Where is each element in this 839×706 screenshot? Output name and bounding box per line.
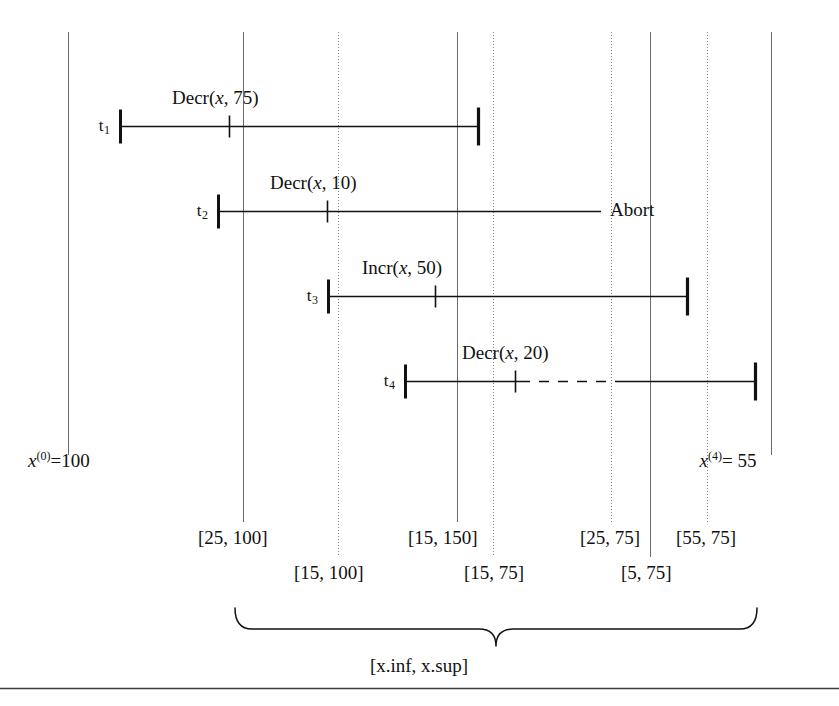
interval-label-4: [15, 75] — [464, 563, 524, 582]
interval-label-7: [55, 75] — [676, 528, 736, 547]
txn-4-operation-label: Decr(x, 20) — [462, 343, 549, 362]
interval-brace — [235, 608, 757, 646]
txn-4-name-label: t4 — [384, 372, 395, 391]
txn-3-operation-label: Incr(x, 50) — [362, 258, 442, 277]
interval-label-6: [5, 75] — [621, 563, 672, 582]
figure-canvas — [0, 0, 839, 706]
txn-1-name-label: t1 — [99, 117, 110, 136]
axis-label-left: x(0)=100 — [28, 450, 90, 470]
interval-label-3: [15, 150] — [408, 528, 478, 547]
axis-label-right: x(4)= 55 — [700, 450, 757, 470]
abort-label: Abort — [610, 200, 654, 219]
txn-2-name-label: t2 — [197, 202, 208, 221]
txn-3-name-label: t3 — [307, 287, 318, 306]
txn-1-operation-label: Decr(x, 75) — [172, 88, 259, 107]
brace-caption-label: [x.inf, x.sup] — [370, 656, 468, 675]
interval-label-5: [25, 75] — [580, 528, 640, 547]
timeline-figure: t1Decr(x, 75)t2Decr(x, 10)t3Incr(x, 50)t… — [0, 0, 839, 706]
interval-label-2: [15, 100] — [294, 563, 364, 582]
interval-label-1: [25, 100] — [198, 528, 268, 547]
txn-2-operation-label: Decr(x, 10) — [270, 173, 357, 192]
